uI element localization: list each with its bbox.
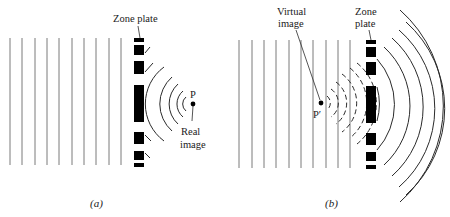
- point-p-label: P: [190, 89, 196, 100]
- zone-plate-b-label-2: plate: [355, 18, 376, 29]
- real-image-point: [191, 102, 196, 107]
- point-p-prime-label: P′: [313, 109, 321, 120]
- real-image-label-1: Real: [181, 126, 200, 137]
- virtual-image-point: [319, 101, 324, 106]
- virtual-image-leader: [296, 30, 320, 100]
- caption-b: (b): [325, 197, 338, 210]
- zone-plate-b-leader: [369, 30, 371, 40]
- zone-plate-a: [134, 38, 144, 167]
- plane-wavefronts-a: [10, 38, 121, 165]
- caption-a: (a): [90, 197, 103, 210]
- plane-wavefronts-b: [239, 40, 350, 168]
- zone-plate-a-label: Zone plate: [113, 13, 158, 24]
- panel-b: Virtual image Zone plate P′ (b): [239, 6, 445, 210]
- panel-a: Zone plate P Real image (a): [10, 13, 206, 210]
- real-image-label-2: image: [180, 139, 206, 150]
- zone-plate-diagram: Zone plate P Real image (a): [0, 0, 450, 217]
- zone-plate-b-label-1: Zone: [355, 6, 377, 17]
- diverging-wavefronts-b: [377, 10, 445, 202]
- virtual-image-label-2: image: [278, 18, 304, 29]
- virtual-image-label-1: Virtual: [277, 6, 306, 17]
- zone-plate-a-leader: [138, 26, 140, 38]
- real-image-leader: [192, 106, 193, 121]
- zone-plate-b: [366, 40, 376, 169]
